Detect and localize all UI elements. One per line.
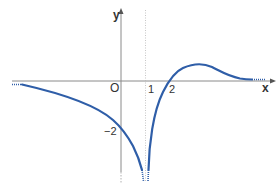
function-graph: y x O 1 2 −2 xyxy=(0,0,280,187)
curve-right-branch xyxy=(149,64,253,170)
x-axis xyxy=(12,79,276,84)
x-axis-label: x xyxy=(262,81,269,95)
right-branch-dots xyxy=(148,170,149,181)
x-axis-arrow-icon xyxy=(270,79,276,84)
left-branch-dots xyxy=(142,170,144,181)
y-axis xyxy=(119,8,124,184)
x-tick-1: 1 xyxy=(148,83,154,95)
x-tick-2: 2 xyxy=(169,83,175,95)
y-tick-neg2: −2 xyxy=(104,125,117,137)
y-axis-label: y xyxy=(113,8,120,22)
curve-left-branch xyxy=(22,85,142,171)
origin-label: O xyxy=(110,81,119,95)
